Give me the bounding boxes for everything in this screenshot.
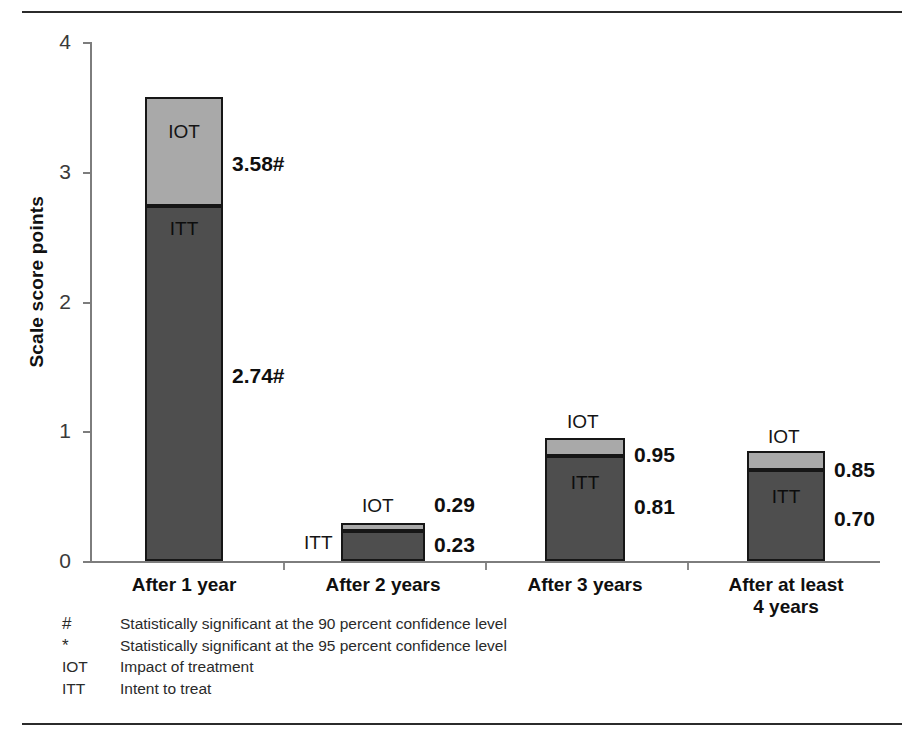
category-label-2-line1: After 2 years bbox=[312, 574, 454, 596]
x-tick-2 bbox=[485, 563, 487, 570]
bar-3-segment-itt[interactable]: ITT bbox=[545, 456, 625, 561]
bar-group-4[interactable]: ITT bbox=[747, 451, 825, 561]
category-label-1-line1: After 1 year bbox=[114, 574, 254, 596]
bar-4-segment-iot[interactable] bbox=[747, 451, 825, 471]
y-tick-label-3: 3 bbox=[59, 160, 71, 184]
y-tick-label-0: 0 bbox=[59, 549, 71, 573]
bar-4-segment-itt[interactable]: ITT bbox=[747, 470, 825, 561]
category-label-4-line1: After at least bbox=[715, 574, 857, 596]
category-label-3: After 3 years bbox=[514, 574, 656, 596]
y-tick-3: 3 bbox=[83, 172, 90, 174]
bar-4-iot-tag: IOT bbox=[768, 426, 800, 448]
legend-row-hash: # Statistically significant at the 90 pe… bbox=[62, 614, 507, 636]
y-tick-1: 1 bbox=[83, 431, 90, 433]
bar-group-2[interactable] bbox=[341, 523, 425, 561]
x-tick-1 bbox=[283, 563, 285, 570]
legend-key-itt: ITT bbox=[62, 680, 120, 698]
bar-3-itt-tag: ITT bbox=[547, 472, 623, 494]
bar-group-1[interactable]: IOT ITT bbox=[145, 97, 223, 562]
legend-row-itt: ITT Intent to treat bbox=[62, 680, 507, 702]
bar-3-segment-iot[interactable] bbox=[545, 438, 625, 456]
bar-3-iot-value: 0.95 bbox=[634, 443, 675, 467]
bottom-rule bbox=[22, 723, 902, 725]
bar-4-itt-tag: ITT bbox=[749, 486, 823, 508]
bar-2-iot-value: 0.29 bbox=[434, 493, 475, 517]
legend-key-iot: IOT bbox=[62, 658, 120, 676]
footnote-legend: # Statistically significant at the 90 pe… bbox=[62, 614, 507, 702]
top-rule bbox=[22, 11, 902, 13]
plot-area: 4 3 2 1 0 IOT ITT 3.58# 2.74# bbox=[90, 42, 880, 561]
legend-row-iot: IOT Impact of treatment bbox=[62, 658, 507, 680]
bar-2-itt-value: 0.23 bbox=[434, 533, 475, 557]
bar-1-segment-iot[interactable]: IOT bbox=[145, 97, 223, 206]
legend-key-hash: # bbox=[62, 614, 120, 634]
legend-text-iot: Impact of treatment bbox=[120, 658, 254, 676]
bar-2-iot-tag: IOT bbox=[362, 495, 394, 517]
bar-group-3[interactable]: ITT bbox=[545, 438, 625, 561]
bar-1-segment-itt[interactable]: ITT bbox=[145, 206, 223, 562]
category-label-4-line2: 4 years bbox=[715, 596, 857, 618]
category-label-4: After at least 4 years bbox=[715, 574, 857, 618]
legend-key-asterisk: * bbox=[62, 636, 120, 656]
bar-1-itt-tag: ITT bbox=[147, 218, 221, 240]
category-label-2: After 2 years bbox=[312, 574, 454, 596]
legend-text-hash: Statistically significant at the 90 perc… bbox=[120, 615, 507, 633]
legend-text-itt: Intent to treat bbox=[120, 680, 211, 698]
legend-row-asterisk: * Statistically significant at the 95 pe… bbox=[62, 636, 507, 658]
y-axis-title: Scale score points bbox=[26, 196, 48, 368]
legend-text-asterisk: Statistically significant at the 95 perc… bbox=[120, 637, 507, 655]
bar-2-itt-tag: ITT bbox=[304, 532, 333, 554]
bar-1-iot-value: 3.58# bbox=[232, 152, 285, 176]
y-tick-0: 0 bbox=[83, 561, 90, 563]
bar-4-itt-value: 0.70 bbox=[834, 507, 875, 531]
y-tick-4: 4 bbox=[83, 42, 90, 44]
category-label-1: After 1 year bbox=[114, 574, 254, 596]
y-tick-label-1: 1 bbox=[59, 419, 71, 443]
figure-container: Scale score points 4 3 2 1 0 IOT bbox=[0, 0, 912, 746]
y-axis-line bbox=[90, 42, 92, 561]
y-tick-label-4: 4 bbox=[59, 30, 71, 54]
bar-3-iot-tag: IOT bbox=[567, 411, 599, 433]
x-tick-3 bbox=[687, 563, 689, 570]
y-tick-2: 2 bbox=[83, 302, 90, 304]
bar-2-segment-iot[interactable] bbox=[341, 523, 425, 531]
bar-1-itt-value: 2.74# bbox=[232, 364, 285, 388]
bar-3-itt-value: 0.81 bbox=[634, 495, 675, 519]
category-label-3-line1: After 3 years bbox=[514, 574, 656, 596]
bar-1-iot-tag: IOT bbox=[147, 121, 221, 143]
bar-4-iot-value: 0.85 bbox=[834, 458, 875, 482]
y-tick-label-2: 2 bbox=[59, 290, 71, 314]
bar-2-segment-itt[interactable] bbox=[341, 531, 425, 561]
